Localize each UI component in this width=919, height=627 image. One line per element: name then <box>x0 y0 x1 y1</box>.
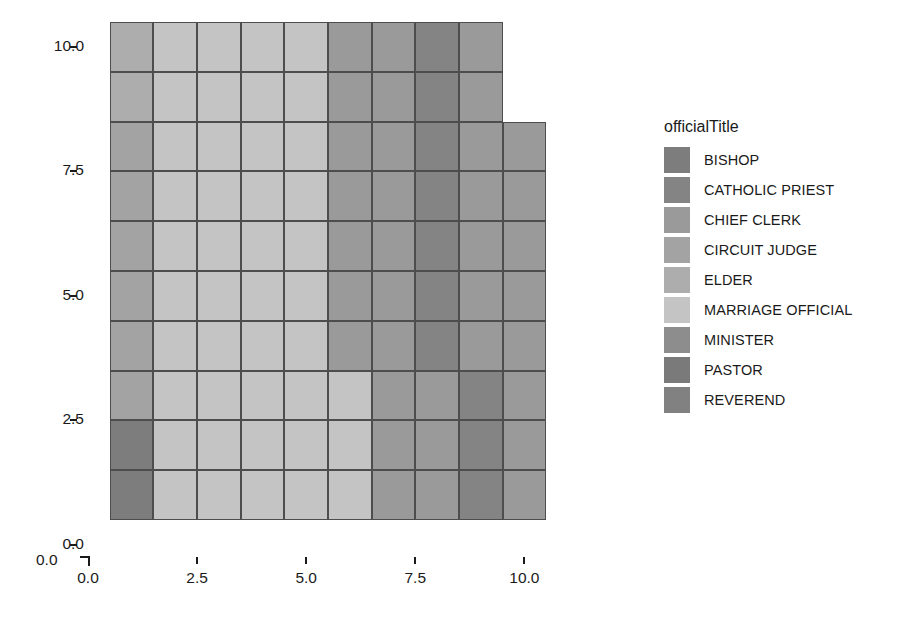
heatmap-cell <box>503 420 547 470</box>
legend-item[interactable]: ELDER <box>664 265 914 295</box>
heatmap-plot-area <box>88 22 568 545</box>
heatmap-cell <box>328 470 372 520</box>
legend-label: REVEREND <box>704 392 785 408</box>
heatmap-cell <box>153 72 197 122</box>
heatmap-cell <box>197 22 241 72</box>
heatmap-cell <box>415 122 459 172</box>
legend-item[interactable]: CIRCUIT JUDGE <box>664 235 914 265</box>
heatmap-cell <box>284 221 328 271</box>
heatmap-cell <box>459 22 503 72</box>
heatmap-cell <box>197 470 241 520</box>
legend-swatch <box>664 267 690 293</box>
heatmap-cell <box>153 470 197 520</box>
heatmap-cell <box>459 171 503 221</box>
heatmap-cell <box>110 122 154 172</box>
heatmap-cell <box>328 22 372 72</box>
heatmap-cell <box>284 271 328 321</box>
heatmap-cell <box>372 420 416 470</box>
heatmap-cell <box>328 122 372 172</box>
legend-swatch <box>664 327 690 353</box>
heatmap-cell <box>153 271 197 321</box>
heatmap-cell <box>328 221 372 271</box>
legend-label: MINISTER <box>704 332 774 348</box>
heatmap-cell <box>110 420 154 470</box>
heatmap-cell <box>197 420 241 470</box>
heatmap-cell <box>372 371 416 421</box>
heatmap-cell <box>372 22 416 72</box>
legend-label: MARRIAGE OFFICIAL <box>704 302 852 318</box>
heatmap-cell <box>241 72 285 122</box>
heatmap-cell <box>459 221 503 271</box>
origin-tick-label: 0.0 <box>36 551 58 569</box>
legend-label: CHIEF CLERK <box>704 212 801 228</box>
heatmap-cell <box>415 171 459 221</box>
heatmap-cell <box>197 271 241 321</box>
heatmap-cell <box>503 171 547 221</box>
heatmap-cell <box>372 72 416 122</box>
heatmap-cell <box>153 171 197 221</box>
heatmap-cell <box>110 72 154 122</box>
heatmap-cell <box>110 470 154 520</box>
x-tick-mark <box>196 557 198 564</box>
legend-item[interactable]: REVEREND <box>664 385 914 415</box>
heatmap-cell <box>372 321 416 371</box>
axis-origin-corner <box>80 556 90 566</box>
legend-item[interactable]: CATHOLIC PRIEST <box>664 175 914 205</box>
heatmap-cell <box>415 321 459 371</box>
heatmap-cell <box>415 72 459 122</box>
heatmap-cell <box>197 221 241 271</box>
legend-label: PASTOR <box>704 362 763 378</box>
heatmap-cell <box>328 371 372 421</box>
legend-label: CIRCUIT JUDGE <box>704 242 817 258</box>
legend-items: BISHOPCATHOLIC PRIESTCHIEF CLERKCIRCUIT … <box>664 145 914 415</box>
legend-item[interactable]: CHIEF CLERK <box>664 205 914 235</box>
legend-title: officialTitle <box>664 118 914 136</box>
heatmap-cell <box>328 420 372 470</box>
heatmap-cell <box>197 171 241 221</box>
heatmap-cell <box>328 72 372 122</box>
legend-item[interactable]: MARRIAGE OFFICIAL <box>664 295 914 325</box>
legend-swatch <box>664 387 690 413</box>
heatmap-cell <box>241 271 285 321</box>
legend-item[interactable]: BISHOP <box>664 145 914 175</box>
heatmap-cell <box>241 171 285 221</box>
heatmap-cell <box>459 72 503 122</box>
heatmap-cell <box>459 371 503 421</box>
heatmap-cell <box>197 371 241 421</box>
x-tick-label: 7.5 <box>404 569 426 587</box>
legend-item[interactable]: MINISTER <box>664 325 914 355</box>
legend-swatch <box>664 147 690 173</box>
x-tick-mark <box>414 557 416 564</box>
heatmap-cell <box>459 470 503 520</box>
heatmap-cell <box>241 22 285 72</box>
heatmap-cell <box>241 371 285 421</box>
legend-label: ELDER <box>704 272 753 288</box>
heatmap-cell <box>197 122 241 172</box>
heatmap-cell <box>197 321 241 371</box>
legend-label: BISHOP <box>704 152 759 168</box>
heatmap-cell <box>459 122 503 172</box>
legend-item[interactable]: PASTOR <box>664 355 914 385</box>
heatmap-cell <box>328 321 372 371</box>
heatmap-cell <box>153 321 197 371</box>
heatmap-cell <box>153 221 197 271</box>
heatmap-cell <box>459 420 503 470</box>
y-tick-mark <box>70 46 77 48</box>
heatmap-cell <box>241 321 285 371</box>
heatmap-cell <box>241 420 285 470</box>
heatmap-cell <box>284 420 328 470</box>
heatmap-cell <box>415 221 459 271</box>
legend-label: CATHOLIC PRIEST <box>704 182 834 198</box>
y-tick-mark <box>70 419 77 421</box>
heatmap-cell <box>503 470 547 520</box>
heatmap-cell <box>503 271 547 321</box>
heatmap-cell <box>415 470 459 520</box>
heatmap-cell <box>110 371 154 421</box>
x-tick-mark <box>523 557 525 564</box>
heatmap-cell <box>415 420 459 470</box>
heatmap-cell <box>415 271 459 321</box>
heatmap-cell <box>459 321 503 371</box>
heatmap-cell <box>459 271 503 321</box>
heatmap-cell <box>284 470 328 520</box>
legend-swatch <box>664 357 690 383</box>
